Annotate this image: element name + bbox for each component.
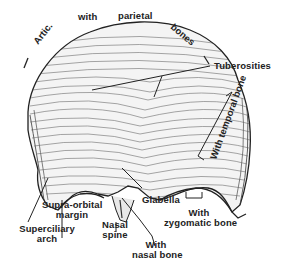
label-with-nasal-line2: nasal bone: [132, 250, 180, 260]
label-with-zygomatic-bone: With zygomatic bone: [164, 208, 234, 228]
label-glabella: Glabella: [142, 195, 180, 205]
label-with-zygomatic-line2: zygomatic bone: [164, 218, 234, 228]
label-superciliary-arch: Superciliary arch: [18, 224, 76, 244]
label-artic: Artic.: [31, 20, 55, 46]
bone-body: [28, 22, 250, 222]
label-nasal-spine: Nasal spine: [100, 220, 130, 240]
label-tuberosities: Tuberosities: [214, 61, 271, 71]
label-superciliary-line2: arch: [18, 234, 76, 244]
label-nasal-spine-line2: spine: [100, 230, 130, 240]
label-with-parietal-top: with: [78, 12, 97, 22]
label-with-nasal-bone: With nasal bone: [132, 240, 180, 260]
label-parietal: parietal: [118, 11, 153, 21]
label-supra-orbital-margin: Supra-orbital margin: [42, 200, 102, 220]
label-supra-orbital-line2: margin: [42, 210, 102, 220]
